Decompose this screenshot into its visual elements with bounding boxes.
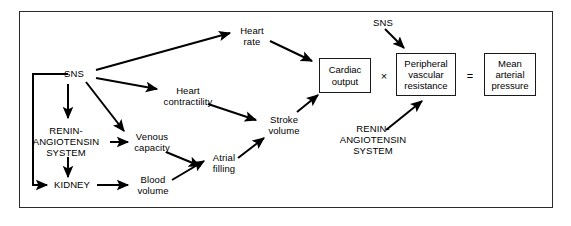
box-cardiac-output: Cardiac output — [319, 58, 371, 93]
node-sns-right: SNS — [373, 17, 393, 28]
node-stroke-volume: Stroke volume — [268, 114, 299, 136]
node-kidney: KIDNEY — [54, 179, 90, 190]
multiplication-operator: × — [381, 70, 387, 82]
edge-venous-capacity-to-atrial-filling — [166, 152, 200, 166]
edge-heart-rate-to-cardiac-output — [270, 41, 312, 61]
node-heart-rate: Heart rate — [240, 25, 264, 47]
node-heart-contractility: Heart contractility — [164, 85, 213, 107]
diagram-root: SNS RENIN- ANGIOTENSIN SYSTEM KIDNEY Hea… — [0, 0, 571, 226]
edge-sns-to-heart-contractility — [96, 78, 157, 89]
edge-atrial-filling-to-stroke-volume — [238, 138, 264, 158]
node-blood-volume: Blood volume — [137, 174, 168, 196]
edge-heart-contractility-to-stroke-volume — [208, 104, 256, 120]
edge-sns-right-to-pvr — [385, 29, 404, 48]
edge-blood-volume-to-atrial-filling — [172, 161, 204, 180]
node-atrial-filling: Atrial filling — [213, 152, 235, 174]
equals-operator: = — [467, 70, 473, 82]
box-peripheral-vascular-resistance: Peripheral vascular resistance — [396, 53, 456, 96]
node-sns-left: SNS — [64, 68, 84, 79]
edge-sns-to-venous-capacity — [86, 82, 124, 131]
edge-stroke-volume-to-cardiac-output — [297, 95, 318, 112]
node-venous-capacity: Venous capacity — [134, 131, 170, 153]
node-renin-angiotensin-system-left: RENIN- ANGIOTENSIN SYSTEM — [33, 125, 100, 159]
box-mean-arterial-pressure: Mean arterial pressure — [484, 53, 536, 96]
edge-sns-to-heart-rate — [96, 33, 230, 70]
node-renin-angiotensin-system-right: RENIN- ANGIOTENSIN SYSTEM — [340, 123, 407, 157]
